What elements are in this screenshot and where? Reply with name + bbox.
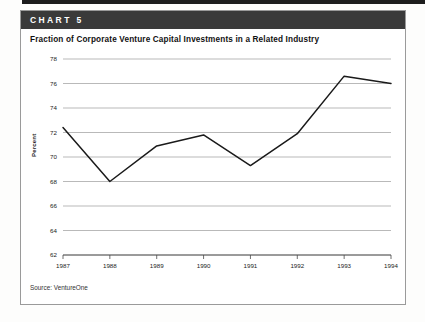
x-axis-tick-label: 1987 [56,262,70,269]
chart-title: Fraction of Corporate Venture Capital In… [30,35,319,44]
y-axis-tick-label: 74 [50,104,57,111]
y-axis-tick-label: 68 [50,178,57,185]
x-axis-tick-label: 1989 [150,262,164,269]
x-axis-tick-label: 1991 [244,262,258,269]
y-axis-tick-label: 78 [50,55,57,62]
source-note: Source: VentureOne [30,284,88,291]
y-axis-tick-label: 62 [50,251,57,258]
chart-banner: CHART 5 [21,11,405,29]
x-axis-tick-label: 1988 [103,262,117,269]
chart-card: CHART 5 Fraction of Corporate Venture Ca… [20,10,406,305]
y-axis-tick-label: 66 [50,202,57,209]
line-chart-svg: 6264666870727476781987198819891990199119… [29,53,399,281]
plot-area: Percent 62646668707274767819871988198919… [29,53,399,281]
x-axis-tick-label: 1990 [197,262,211,269]
x-axis-tick-label: 1994 [384,262,398,269]
data-series-line [63,76,391,181]
x-axis-tick-label: 1993 [337,262,351,269]
x-axis-tick-label: 1992 [290,262,304,269]
y-axis-tick-label: 70 [50,153,57,160]
y-axis-tick-label: 64 [50,227,57,234]
top-rule [22,0,425,4]
y-axis-tick-label: 76 [50,80,57,87]
chart-number-label: CHART 5 [30,14,84,26]
chart-page: CHART 5 Fraction of Corporate Venture Ca… [0,0,425,322]
y-axis-tick-label: 72 [50,129,57,136]
